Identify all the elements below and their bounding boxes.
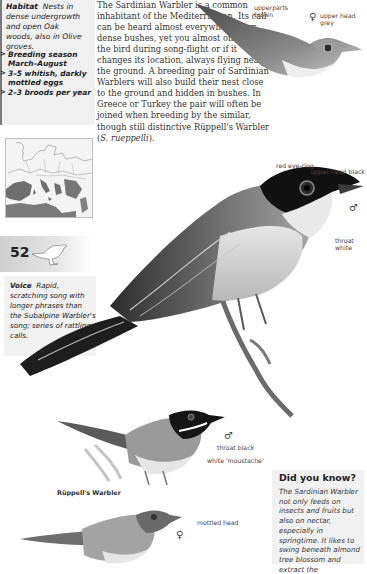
fact-text: 3–5 whitish, darkly mottled eggs <box>8 69 86 87</box>
fact-eggs: > 3–5 whitish, darkly mottled eggs <box>0 69 94 88</box>
fact-text: 2–3 broods per year <box>8 88 91 97</box>
label-red-eye-ring: red eye-ring <box>276 162 314 169</box>
fact-text: Breeding season March–August <box>8 50 77 68</box>
label-upperparts-brown: upperparts brown <box>254 4 294 19</box>
fact-breeding-season: > Breeding season March–August <box>0 50 94 69</box>
female-symbol-icon: ♀ <box>176 529 183 540</box>
male-symbol-icon: ♂ <box>349 202 358 213</box>
ruppell-male-illustration <box>55 405 225 485</box>
ruppell-caption: Rüppell's Warbler <box>57 489 121 497</box>
did-you-know-title: Did you know? <box>279 472 356 483</box>
did-you-know-text: The Sardinian Warbler not only feeds on … <box>279 487 363 574</box>
ruppell-female-illustration <box>18 505 188 564</box>
label-upper-head-grey: upper head grey <box>320 12 364 27</box>
habitat-label: Habitat <box>6 2 38 11</box>
label-white-moustache: white 'moustache' <box>207 457 264 464</box>
male-symbol-icon: ♂ <box>224 430 233 441</box>
arrow-marker-icon: > <box>0 88 6 97</box>
fact-list: > Breeding season March–August > 3–5 whi… <box>0 50 94 97</box>
label-throat-white: throat white <box>335 237 363 252</box>
label-mottled-head: mottled head <box>197 519 239 526</box>
label-upper-head-black: upper head black <box>311 168 367 175</box>
label-throat-black: throat black <box>217 444 254 451</box>
female-symbol-icon: ♀ <box>309 11 316 22</box>
arrow-marker-icon: > <box>0 69 6 78</box>
arrow-marker-icon: > <box>0 50 6 59</box>
fact-broods: > 2–3 broods per year <box>0 88 94 97</box>
habitat-block: Habitat Nests in dense undergrowth and o… <box>6 2 88 52</box>
